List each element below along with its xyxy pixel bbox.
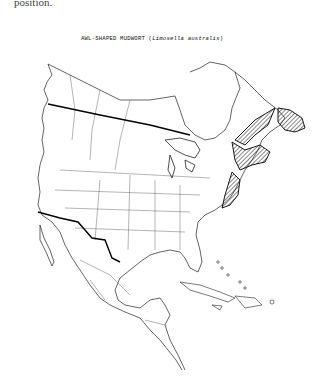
range-distribution	[222, 108, 305, 208]
range-map	[0, 0, 321, 391]
great-lakes	[165, 138, 200, 178]
continent-outline	[38, 62, 285, 370]
international-borders	[38, 104, 190, 262]
caribbean-islands	[180, 261, 274, 310]
